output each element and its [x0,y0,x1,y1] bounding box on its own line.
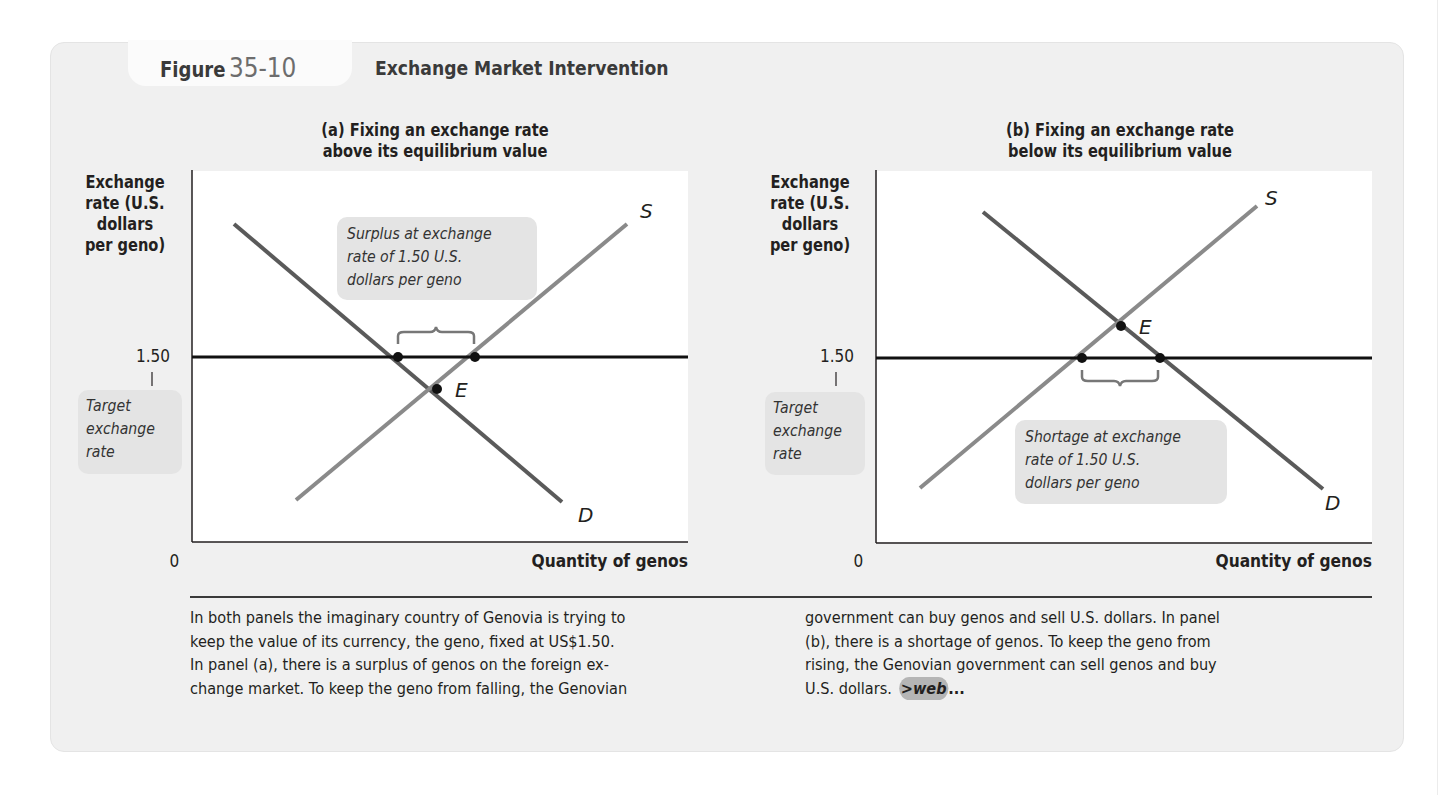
panel-a-s-label: S [640,199,653,223]
panel-b-shortage-brace [1082,370,1158,386]
panel-b-s-label: S [1265,186,1278,210]
panel-b-e-label: E [1139,315,1152,339]
web-link-ellipsis: ... [948,679,965,698]
panel-b-supply-point [1077,353,1087,363]
panel-a-demand-curve [234,224,562,502]
caption-column-2: government can buy genos and sell U.S. d… [805,606,1276,700]
caption-line: keep the value of its currency, the geno… [190,630,627,654]
caption-column-1: In both panels the imaginary country of … [190,606,687,700]
caption-line: government can buy genos and sell U.S. d… [805,606,1220,630]
caption-line: In both panels the imaginary country of … [190,606,627,630]
caption-line: rising, the Genovian government can sell… [805,653,1220,677]
panel-a-e-label: E [455,378,468,402]
panel-b-demand-curve [983,212,1323,489]
panel-a-d-label: D [578,503,593,527]
panel-a-supply-point [470,352,480,362]
caption-line: U.S. dollars. [805,679,892,698]
panel-a-demand-point [393,352,403,362]
caption-last-line: U.S. dollars.>web... [805,677,1220,701]
web-link[interactable]: >web [899,677,948,701]
panel-a-surplus-brace [398,327,474,344]
web-link-label: >web [901,679,947,698]
panel-b-supply-curve [920,206,1257,488]
caption-rule [190,596,1372,598]
caption-line: change market. To keep the geno from fal… [190,677,627,701]
panel-a-supply-curve [296,224,627,500]
panel-b-equilibrium-point [1116,321,1126,331]
panel-b-d-label: D [1325,491,1340,515]
panel-a-equilibrium-point [432,384,442,394]
caption-line: In panel (a), there is a surplus of geno… [190,653,627,677]
caption-line: (b), there is a shortage of genos. To ke… [805,630,1220,654]
panel-b-demand-point [1155,353,1165,363]
